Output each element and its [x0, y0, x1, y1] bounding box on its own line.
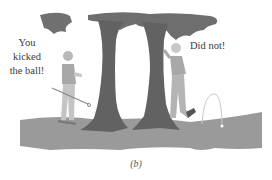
- illustration: [0, 0, 272, 180]
- speech-right: Did not!: [190, 40, 225, 51]
- speech-left-line-3: the ball!: [6, 64, 48, 78]
- tree-trunk-left: [80, 20, 128, 132]
- speech-left-line-1: You: [6, 36, 48, 50]
- speech-left-line-2: kicked: [6, 50, 48, 64]
- left-tree-foliage: [40, 13, 72, 34]
- ball: [221, 125, 224, 128]
- person-right: [164, 43, 196, 118]
- figure-label: (b): [0, 158, 272, 169]
- speech-left: You kicked the ball!: [6, 36, 48, 78]
- ground: [20, 112, 262, 150]
- scene-drawing: [0, 0, 272, 180]
- person-left: [52, 51, 91, 124]
